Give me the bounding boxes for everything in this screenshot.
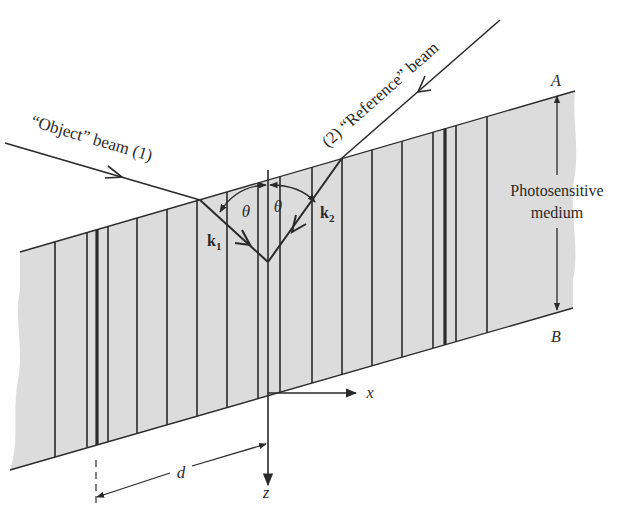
theta-right-label: θ — [274, 197, 282, 216]
z-axis-label: z — [262, 484, 270, 501]
theta-left-label: θ — [242, 202, 250, 221]
medium-label-line2: medium — [531, 204, 584, 221]
d-dimension-left — [97, 473, 170, 497]
face-a-label: A — [550, 72, 561, 89]
d-label: d — [177, 463, 186, 482]
face-b-label: B — [551, 328, 561, 345]
x-axis-label: x — [365, 384, 373, 401]
reference-beam-label: (2) “Reference” beam — [318, 38, 442, 151]
hologram-diagram: “Object” beam (1) (2) “Reference” beam P… — [0, 0, 619, 507]
object-beam-label: “Object” beam (1) — [29, 112, 155, 165]
d-dimension-right — [192, 444, 266, 466]
object-beam — [5, 143, 200, 200]
medium-label-line1: Photosensitive — [510, 182, 603, 199]
